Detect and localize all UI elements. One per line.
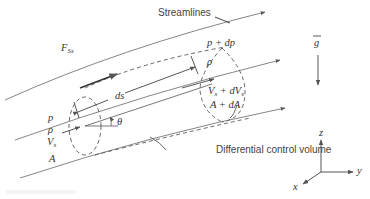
outlet-density-label: ρ — [207, 57, 212, 68]
outlet-pressure-label: p + dp — [207, 38, 235, 49]
axis-z-label: z — [319, 128, 323, 139]
outlet-velocity-label: Vs + dVs — [208, 86, 244, 98]
axis-x-line — [303, 172, 321, 184]
surface-force-arrow — [80, 74, 117, 88]
theta-label: θ — [117, 117, 122, 128]
control-volume-label: Differential control volume — [216, 145, 331, 155]
gravity-label: g — [314, 38, 319, 49]
centerline — [85, 84, 212, 126]
axis-x-label: x — [293, 182, 298, 193]
ds-label: ds — [115, 91, 124, 102]
streamlines-leader — [215, 17, 230, 23]
theta-arc — [110, 117, 111, 126]
inlet-velocity-arrow — [62, 127, 80, 133]
inlet-density-label: ρ — [48, 125, 53, 136]
diagram-canvas: Streamlines Differential control volume … — [0, 0, 370, 199]
streamline-lower — [20, 108, 285, 178]
inlet-velocity-label: Vs — [47, 137, 56, 149]
axis-y-label: y — [357, 166, 362, 177]
outlet-area-label: A + dA — [210, 100, 240, 111]
faded-caption — [6, 190, 76, 194]
surface-force-label: FSs — [61, 43, 74, 55]
diagram-drawing — [0, 0, 370, 199]
inlet-pressure-label: p — [48, 113, 53, 124]
inlet-area-label: A — [49, 154, 55, 165]
streamlines-label: Streamlines — [158, 8, 211, 18]
